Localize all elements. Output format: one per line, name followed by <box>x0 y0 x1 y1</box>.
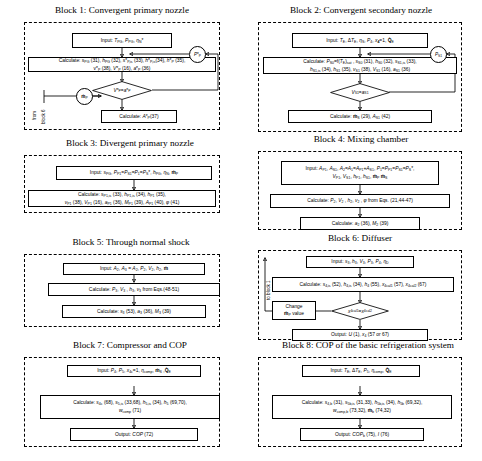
block6-calculate-box[interactable]: Calculate: s4,is (52), h4,is (34), h4 (5… <box>272 277 454 292</box>
block5-input-text: Input: A2, A3 = A2, P2, V2, h2, ṁ <box>67 265 201 273</box>
block1-input-box[interactable]: Input: TPG, PPG, ηN* <box>72 33 172 48</box>
block1-connector-m-dot-p-label: ṁP <box>81 94 87 100</box>
block7-input-box[interactable]: Input: P4, P5, x4c=1, ηcomp, ṁS ,Q̇E <box>67 365 201 377</box>
block1-side-label-from: from <box>32 111 37 120</box>
block6-change-mdot-text: ChangeṁP value <box>276 303 312 318</box>
block7-output-text: Output: COP (72) <box>74 431 194 438</box>
block1-connector-p-star-p[interactable]: P*P <box>189 46 206 63</box>
block3-title-text: Block 3: Divergent primary nozzle <box>66 138 194 148</box>
block1-decision-vp-equals-ap[interactable]: V*P = a*P <box>92 81 152 100</box>
block7-title: Block 7: Compressor and COP <box>50 341 210 350</box>
block8-input-text: Input: TE, ΔTE, P5, ηcomp, Q̇E <box>306 367 416 375</box>
block6-change-mdot-box[interactable]: ChangeṁP value <box>272 301 316 320</box>
block5-input-box[interactable]: Input: A2, A3 = A2, P2, V2, h2, ṁ <box>63 263 205 275</box>
block2-input-text: Input: TE, ΔTE, ηS, P4, x4=1, Q̇E <box>296 37 424 45</box>
block1-title: Block 1: Convergent primary nozzle <box>47 6 197 15</box>
block6-output-text: Output: U (1), x4 (57 or 67) <box>296 331 424 339</box>
block2-title-text: Block 2: Convergent secondary nozzle <box>290 5 432 15</box>
block4-calculate-a2-m2-text: Calculate: a2 (36), M2 (39) <box>304 220 416 228</box>
block8-calculate-text: Calculate: s4,b (31), s5b,is (31,33), h5… <box>276 399 448 415</box>
block3-input-text: Input: sPG, PP1=PS1=P1=PS*, hPG, ηN, ṁP <box>60 169 208 177</box>
block3-input-box[interactable]: Input: sPG, PP1=PS1=P1=PS*, hPG, ηN, ṁP <box>56 166 212 180</box>
block7-calculate-box[interactable]: Calculate: s4c (68), s5,is (33,68), h5,i… <box>40 395 220 419</box>
figure-canvas: Block 1: Convergent primary nozzle Input… <box>0 0 482 461</box>
block6-side-label-to-block1: to block 1 <box>266 280 271 300</box>
block4-calculate-eqs-text: Calculate: P2, V2 , h2, v2 , φ from Eqs.… <box>274 197 446 205</box>
block6-title: Block 6: Diffuser <box>320 234 400 243</box>
block3-title: Block 3: Divergent primary nozzle <box>55 139 205 148</box>
block4-calculate-a2-m2-box[interactable]: Calculate: a2 (36), M2 (39) <box>300 217 420 230</box>
block5-calculate-eqs-text: Calculate: P3, V3 , h3, v3 from Eqs.(48-… <box>52 286 216 294</box>
block7-input-text: Input: P4, P5, x4c=1, ηcomp, ṁS ,Q̇E <box>71 367 197 375</box>
block5-title: Block 5: Through normal shock <box>56 238 206 247</box>
block6-decision-x4cal1-equals-x4cal2[interactable]: x4cal1= x4cal2 <box>331 302 389 320</box>
block2-calculate-text: Calculate: PS0=f(TE)sat , sS0 (31), hS0 … <box>267 58 453 74</box>
block1-connector-m-dot-p[interactable]: ṁP <box>76 88 93 105</box>
block5-calculate-eqs-box[interactable]: Calculate: P3, V3 , h3, v3 from Eqs.(48-… <box>48 283 220 296</box>
block8-title-text: Block 8: COP of the basic refrigeration … <box>282 340 454 350</box>
block2-input-box[interactable]: Input: TE, ΔTE, ηS, P4, x4=1, Q̇E <box>292 33 428 48</box>
block7-title-text: Block 7: Compressor and COP <box>73 340 187 350</box>
block8-output-box[interactable]: Output: COPb (75), I (76) <box>300 428 424 441</box>
block2-connector-p-s1[interactable]: PS1 <box>430 46 447 63</box>
block2-calculate-mass-area-box[interactable]: Calculate: ṁS (29), AS1 (42) <box>288 110 432 123</box>
block4-title-text: Block 4: Mixing chamber <box>314 134 409 144</box>
block1-input-text: Input: TPG, PPG, ηN* <box>76 37 168 45</box>
block1-calculate-text: Calculate: sPG (31), hPG (32), s*P,is (3… <box>32 57 212 73</box>
block1-calculate-area-box[interactable]: Calculate: A*P(37) <box>101 110 177 123</box>
block1-connector-p-star-p-label: P*P <box>194 52 201 58</box>
block6-title-text: Block 6: Diffuser <box>328 233 392 243</box>
block2-calculate-mass-area-text: Calculate: ṁS (29), AS1 (42) <box>292 113 428 121</box>
block2-title: Block 2: Convergent secondary nozzle <box>277 6 445 15</box>
block4-input-text: Input: AP1, AS1, A2=A1=AP1+AS1, P1=PP1=P… <box>285 165 435 181</box>
block1-side-label-block6: block 6 <box>41 109 46 124</box>
block6-input-box[interactable]: Input: s3, h3, V3, P3, P4, ηD <box>306 256 414 268</box>
block5-title-text: Block 5: Through normal shock <box>72 237 189 247</box>
block7-output-box[interactable]: Output: COP (72) <box>70 428 198 441</box>
block6-calculate-text: Calculate: s4,is (52), h4,is (34), h4 (5… <box>276 281 450 289</box>
block2-calculate-box[interactable]: Calculate: PS0=f(TE)sat , sS0 (31), hS0 … <box>263 57 457 74</box>
block7-calculate-text: Calculate: s4c (68), s5,is (33,68), h5,i… <box>44 399 216 415</box>
block8-input-box[interactable]: Input: TE, ΔTE, P5, ηcomp, Q̇E <box>302 365 420 377</box>
block5-calculate-s3-a3-m3-box[interactable]: Calculate: s3 (53), a3 (36), M3 (39) <box>62 305 206 318</box>
block4-input-box[interactable]: Input: AP1, AS1, A2=A1=AP1+AS1, P1=PP1=P… <box>281 161 439 185</box>
block8-calculate-box[interactable]: Calculate: s4,b (31), s5b,is (31,33), h5… <box>272 395 452 419</box>
block4-calculate-eqs-box[interactable]: Calculate: P2, V2 , h2, v2 , φ from Eqs.… <box>270 194 450 208</box>
block5-calculate-s3-a3-m3-text: Calculate: s3 (53), a3 (36), M3 (39) <box>66 308 202 316</box>
block3-calculate-text: Calculate: sP1,is (33), hP1,is (34), hP1… <box>32 191 212 207</box>
block1-calculate-box[interactable]: Calculate: sPG (31), hPG (32), s*P,is (3… <box>28 57 216 72</box>
block2-decision-vs1-equals-as1[interactable]: VS1 = aS1 <box>330 83 390 102</box>
block2-connector-p-s1-label: PS1 <box>435 52 442 58</box>
block4-title: Block 4: Mixing chamber <box>303 135 419 144</box>
block6-input-text: Input: s3, h3, V3, P3, P4, ηD <box>310 258 410 266</box>
block1-calculate-area-text: Calculate: A*P(37) <box>105 113 173 121</box>
block3-calculate-box[interactable]: Calculate: sP1,is (33), hP1,is (34), hP1… <box>28 190 216 207</box>
block1-title-text: Block 1: Convergent primary nozzle <box>55 5 189 15</box>
block8-output-text: Output: COPb (75), I (76) <box>304 431 420 439</box>
block8-title: Block 8: COP of the basic refrigeration … <box>260 341 476 350</box>
